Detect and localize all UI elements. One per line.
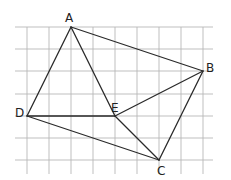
- label-C: C: [157, 164, 165, 178]
- geometry-diagram: A B C D E: [0, 0, 231, 180]
- label-A: A: [65, 11, 74, 25]
- label-E: E: [111, 101, 119, 115]
- label-B: B: [206, 61, 214, 75]
- label-D: D: [15, 106, 24, 120]
